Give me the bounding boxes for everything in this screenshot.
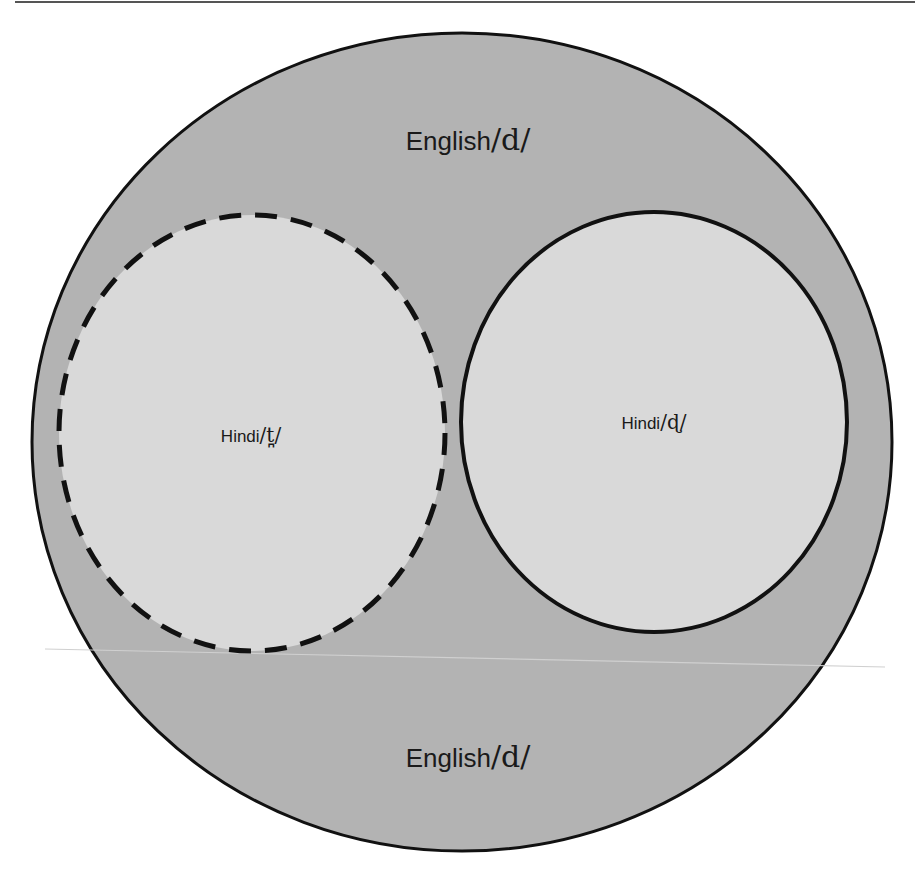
inner-right-label-ipa: /ɖ/ — [660, 410, 687, 434]
outer-bottom-label-text: English — [406, 743, 491, 773]
outer-top-label: English/d/ — [406, 122, 532, 157]
inner-left-label-ipa: /t̪/ — [260, 423, 282, 448]
outer-bottom-label-ipa: /d/ — [491, 739, 531, 774]
outer-top-label-text: English — [406, 126, 491, 156]
venn-diagram: English/d/ Hindi/t̪/ Hindi/ɖ/ English/d/ — [0, 0, 915, 869]
inner-right-label: Hindi/ɖ/ — [621, 410, 686, 434]
outer-bottom-label: English/d/ — [406, 739, 532, 774]
inner-left-label-text: Hindi — [221, 427, 260, 446]
inner-right-label-text: Hindi — [621, 414, 660, 433]
outer-top-label-ipa: /d/ — [491, 122, 531, 157]
inner-left-label: Hindi/t̪/ — [221, 423, 282, 448]
